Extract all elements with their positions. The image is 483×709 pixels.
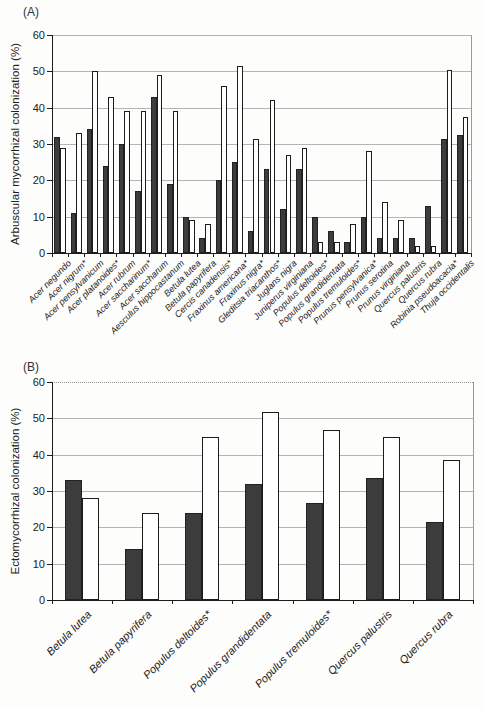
bar-open-25 bbox=[447, 70, 453, 253]
y-tick-label-60: 60 bbox=[15, 29, 45, 41]
bar-open-11 bbox=[221, 86, 227, 253]
y-tick-label-40: 40 bbox=[15, 449, 45, 461]
bar-open-3 bbox=[202, 437, 219, 601]
bar-open-7 bbox=[157, 75, 163, 253]
y-tick-label-0: 0 bbox=[15, 594, 45, 606]
bar-filled-4 bbox=[245, 484, 262, 600]
plot-right-border bbox=[471, 35, 472, 253]
panel-b-label: (B) bbox=[23, 360, 39, 374]
gridline-60 bbox=[52, 35, 471, 36]
bar-open-9 bbox=[189, 220, 195, 253]
x-category-label-6: Quercus palustris bbox=[325, 608, 394, 677]
y-tick-label-50: 50 bbox=[15, 65, 45, 77]
y-tick-label-20: 20 bbox=[15, 521, 45, 533]
bar-open-10 bbox=[205, 224, 211, 253]
bar-filled-2 bbox=[125, 549, 142, 600]
y-tick-label-0: 0 bbox=[15, 247, 45, 259]
bar-open-3 bbox=[92, 71, 98, 253]
bar-open-7 bbox=[443, 460, 460, 600]
x-category-label-7: Quercus rubra bbox=[396, 608, 454, 666]
bar-open-8 bbox=[173, 111, 179, 253]
bar-open-5 bbox=[124, 111, 130, 253]
bar-open-2 bbox=[142, 513, 159, 600]
bar-open-4 bbox=[262, 412, 279, 600]
bar-open-23 bbox=[415, 246, 421, 253]
gridline-10 bbox=[52, 217, 471, 218]
y-tick-label-60: 60 bbox=[15, 376, 45, 388]
bar-open-20 bbox=[366, 151, 372, 253]
y-axis-line bbox=[52, 382, 53, 601]
bar-open-2 bbox=[76, 133, 82, 253]
bar-open-17 bbox=[318, 242, 324, 253]
panel-a-label: (A) bbox=[23, 5, 39, 19]
bar-open-13 bbox=[253, 139, 259, 253]
mycorrhizal-colonization-figure: (A) Arbuscular mycorrhizal colonization … bbox=[0, 0, 483, 709]
y-tick-label-40: 40 bbox=[15, 102, 45, 114]
bar-filled-6 bbox=[366, 478, 383, 600]
x-axis-line bbox=[52, 253, 472, 254]
bar-open-1 bbox=[82, 498, 99, 600]
x-category-label-2: Betula papyrifera bbox=[86, 608, 153, 675]
plot-right-border bbox=[473, 382, 474, 600]
bar-filled-7 bbox=[426, 522, 443, 600]
bar-open-5 bbox=[323, 430, 340, 600]
gridline-40 bbox=[52, 108, 471, 109]
gridline-50 bbox=[52, 71, 471, 72]
bar-open-21 bbox=[382, 202, 388, 253]
bar-filled-1 bbox=[65, 480, 82, 600]
y-tick-label-30: 30 bbox=[15, 485, 45, 497]
bar-filled-5 bbox=[306, 503, 323, 600]
bar-open-16 bbox=[302, 148, 308, 253]
bar-open-24 bbox=[431, 246, 437, 253]
bar-open-14 bbox=[270, 100, 276, 253]
y-tick-label-30: 30 bbox=[15, 138, 45, 150]
y-axis-line bbox=[52, 35, 53, 254]
gridline-20 bbox=[52, 180, 471, 181]
bar-open-1 bbox=[60, 148, 66, 253]
bar-open-6 bbox=[141, 111, 147, 253]
y-tick-label-50: 50 bbox=[15, 412, 45, 424]
gridline-30 bbox=[52, 144, 471, 145]
bar-open-22 bbox=[398, 220, 404, 253]
bar-open-26 bbox=[463, 117, 469, 253]
bar-open-18 bbox=[334, 242, 340, 253]
y-tick-label-10: 10 bbox=[15, 558, 45, 570]
bar-open-6 bbox=[383, 437, 400, 600]
bar-open-4 bbox=[108, 97, 114, 253]
bar-filled-3 bbox=[185, 513, 202, 600]
bar-open-12 bbox=[237, 66, 243, 253]
gridline-60 bbox=[52, 382, 473, 383]
y-tick-label-10: 10 bbox=[15, 211, 45, 223]
x-axis-line bbox=[52, 600, 474, 601]
x-category-label-1: Betula lutea bbox=[44, 608, 94, 658]
y-tick-label-20: 20 bbox=[15, 174, 45, 186]
bar-open-19 bbox=[350, 224, 356, 253]
bar-open-15 bbox=[286, 155, 292, 253]
